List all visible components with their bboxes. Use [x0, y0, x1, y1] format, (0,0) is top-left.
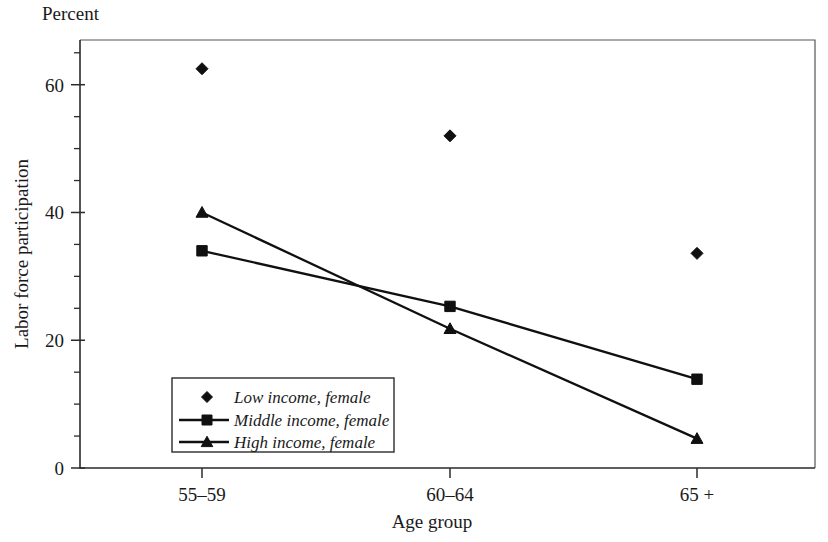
legend-label: High income, female: [233, 433, 376, 452]
y-axis-tick-labels: 0204060: [45, 75, 64, 479]
x-tick-label: 65 +: [680, 484, 714, 505]
data-point-diamond: [444, 130, 456, 142]
y-tick-label: 0: [55, 458, 65, 479]
line-chart: 0204060 55–5960–6465 + Low income, femal…: [0, 0, 828, 542]
data-point-square: [197, 246, 207, 256]
legend-label: Middle income, female: [233, 411, 390, 430]
data-point-triangle: [196, 206, 208, 217]
data-point-square: [445, 301, 455, 311]
x-axis-title: Age group: [392, 511, 473, 532]
chart-legend: Low income, femaleMiddle income, femaleH…: [172, 378, 394, 452]
percent-unit-label: Percent: [42, 3, 100, 24]
y-tick-label: 20: [45, 330, 64, 351]
data-point-diamond: [691, 247, 703, 259]
series-line: [202, 251, 697, 379]
series-1: [196, 63, 703, 260]
legend-label: Low income, female: [233, 388, 371, 407]
x-tick-label: 60–64: [426, 484, 474, 505]
data-point-square: [692, 374, 702, 384]
x-axis-tick-labels: 55–5960–6465 +: [178, 484, 714, 505]
data-point-triangle: [444, 323, 456, 334]
series-2: [197, 246, 702, 385]
data-point-diamond: [196, 63, 208, 75]
x-tick-label: 55–59: [178, 484, 226, 505]
legend-marker-square: [202, 415, 212, 425]
x-axis-ticks: [202, 468, 697, 478]
y-axis-title: Labor force participation: [11, 159, 32, 349]
data-point-triangle: [691, 433, 703, 444]
y-axis-ticks: [71, 53, 85, 468]
y-tick-label: 60: [45, 75, 64, 96]
y-tick-label: 40: [45, 202, 64, 223]
chart-page: 0204060 55–5960–6465 + Low income, femal…: [0, 0, 828, 542]
